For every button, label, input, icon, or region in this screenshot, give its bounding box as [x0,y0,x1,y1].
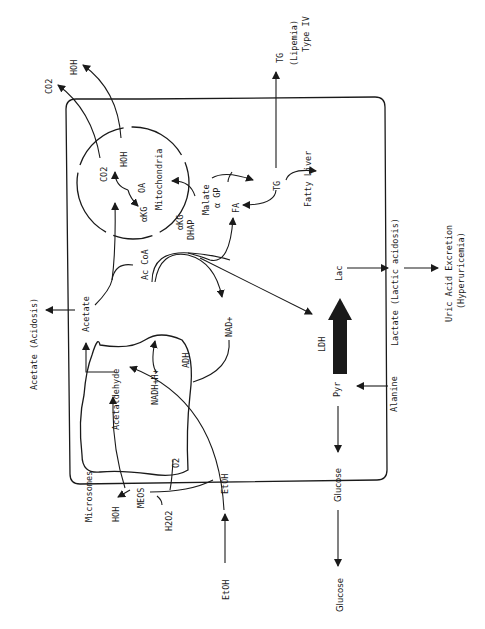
label-nad: NAD+ [224,317,234,337]
label-microsomes: Microsomes [84,471,94,522]
label-acetate-acidosis: Acetate (Acidosis) [29,298,39,390]
label-hyperuricemia: (Hyperuricemia) [456,232,466,309]
label-alanine: Alanine [389,376,399,412]
label-fa: FA [231,203,241,213]
label-glucose-in: Glucose [333,468,343,502]
label-hoh-micro: HOH [111,507,121,522]
label-dhap: DHAP [186,220,196,240]
label-akg-mito: αKG [139,207,149,222]
label-co2-in: CO2 [99,167,109,182]
label-akg: αKG [175,215,185,230]
label-type-iv: Type IV [301,16,311,52]
label-lac: Lac [334,266,344,281]
label-adh: ADH [181,353,191,368]
label-oa: OA [137,183,147,193]
label-acetate: Acetate [81,296,91,332]
label-agp: α GP [212,188,222,208]
ldh-thick-arrow-body [333,318,347,374]
microsomes-membrane [80,335,191,475]
label-pyr: Pyr [332,382,342,397]
label-lactate-acidosis: Lactate (Lactic acidosis) [390,218,400,346]
label-etoh-in: EtOH [220,474,230,494]
mitochondria-membrane [77,127,189,239]
label-ldh: LDH [317,337,327,352]
label-etoh-out: EtOH [221,580,231,600]
label-malate: Malate [201,184,211,215]
label-fatty-liver: Fatty Liver [303,151,313,207]
label-co2-out: CO2 [44,79,54,94]
label-h2o2: H2O2 [164,511,174,531]
ethanol-metabolism-diagram: CO2 HOH CO2 HOH OA αKG Mitochondria Mala… [0,0,485,629]
label-tg-in: TG [272,181,282,191]
label-hoh-in: HOH [119,152,129,167]
label-ac-coa: Ac CoA [140,249,150,280]
label-acetaldehyde: Acetaldehyde [111,369,121,430]
label-tg-out: TG [275,53,285,63]
label-mitochondria: Mitochondria [154,149,164,210]
label-o2: O2 [171,458,181,468]
label-glucose-out: Glucose [335,578,345,612]
label-nadh: NADH+H+ [150,369,160,405]
label-lipemia: (Lipemia) [289,20,299,66]
label-uric-acid: Uric Acid Excretion [444,225,454,322]
label-meos: MEOS [136,488,146,508]
label-hoh-out: HOH [69,60,79,75]
